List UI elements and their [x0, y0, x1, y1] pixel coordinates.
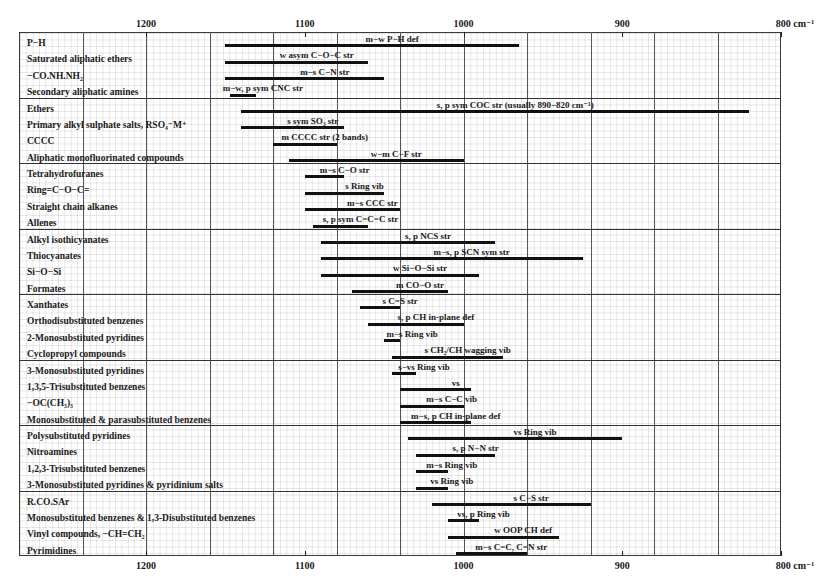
frequency-range-bar — [400, 421, 471, 424]
frequency-range-bar — [456, 552, 527, 555]
assignment-label: w Si−O−Si str — [393, 263, 447, 273]
assignment-label: vs Ring vib — [514, 427, 557, 437]
frequency-range-bar — [321, 241, 496, 244]
assignment-label: s sym SO₃ str — [287, 116, 338, 126]
assignment-label: m CO−O str — [396, 280, 444, 290]
compound-label: Tetrahydrofuranes — [27, 169, 104, 180]
group-separator — [19, 491, 781, 492]
assignment-label: m−s Ring vib — [386, 329, 437, 339]
compound-label: 1,3,5-Trisubstituted benzenes — [27, 382, 145, 393]
axis-tick-top — [464, 32, 465, 37]
compound-label: Vinyl compounds, −CH=CH₂ — [27, 529, 145, 540]
axis-tick-bottom — [146, 551, 147, 556]
assignment-label: m−s Ring vib — [426, 460, 477, 470]
assignment-label: s, p CH in-plane def — [397, 312, 474, 322]
assignment-label: vs Ring vib — [430, 476, 473, 486]
compound-label: Si−O−Si — [27, 267, 61, 278]
assignment-label: s CH₂/CH wagging vib — [424, 345, 510, 355]
frequency-range-bar — [305, 208, 400, 211]
axis-label-top: 900 — [615, 18, 630, 29]
compound-label: 2-Monosubstituted pyridines — [27, 333, 144, 344]
compound-label: Aliphatic monofluorinated compounds — [27, 153, 184, 164]
frequency-range-bar — [408, 437, 622, 440]
compound-label: Monosubstituted benzenes & 1,3-Disubstit… — [27, 513, 255, 524]
compound-label: Cyclopropyl compounds — [27, 349, 126, 360]
axis-tick-bottom — [305, 551, 306, 556]
frequency-range-bar — [305, 192, 384, 195]
frequency-range-bar — [416, 470, 448, 473]
assignment-label: w asym C−O−C str — [280, 50, 354, 60]
axis-label-top: 1100 — [295, 18, 314, 29]
compound-label: Saturated aliphatic ethers — [27, 54, 132, 65]
axis-label-bottom: 800 cm⁻¹ — [776, 560, 815, 571]
frequency-range-bar — [448, 536, 559, 539]
frequency-range-bar — [416, 487, 448, 490]
axis-label-top: 800 cm⁻¹ — [776, 18, 815, 29]
assignment-label: vs — [452, 378, 460, 388]
frequency-range-bar — [225, 61, 368, 64]
assignment-label: m−s C−C vib — [426, 394, 477, 404]
axis-label-bottom: 1200 — [136, 560, 156, 571]
axis-label-bottom: 900 — [615, 560, 630, 571]
frequency-range-bar — [400, 388, 471, 391]
compound-label: Straight chain alkanes — [27, 202, 118, 213]
assignment-label: s C=S str — [383, 296, 418, 306]
axis-tick-top — [781, 32, 782, 37]
compound-label: Thiocyanates — [27, 251, 81, 262]
frequency-range-bar — [392, 356, 503, 359]
group-separator — [19, 229, 781, 230]
compound-label: −OC(CH₃)₃ — [27, 398, 73, 409]
assignment-label: s, p N−N str — [452, 443, 498, 453]
frequency-range-bar — [225, 77, 384, 80]
compound-label: Xanthates — [27, 300, 68, 311]
assignment-label: m−w, p sym CNC str — [223, 83, 303, 93]
assignment-label: m−s C−N str — [300, 67, 349, 77]
assignment-label: s, p sym C=C=C str — [323, 214, 399, 224]
compound-label: Secondary aliphatic amines — [27, 87, 138, 98]
axis-label-top: 1200 — [136, 18, 156, 29]
assignment-label: m−s CCC str — [347, 198, 398, 208]
assignment-label: s Ring vib — [345, 181, 384, 191]
assignment-label: m−s C−O str — [320, 165, 370, 175]
compound-label: P−H — [27, 38, 46, 49]
axis-tick-top — [146, 32, 147, 37]
compound-label: CCCC — [27, 136, 54, 147]
frequency-range-bar — [305, 175, 345, 178]
frequency-range-bar — [273, 143, 337, 146]
frequency-range-bar — [448, 519, 480, 522]
group-separator — [19, 294, 781, 295]
frequency-range-bar — [416, 454, 495, 457]
assignment-label: w−m C−F str — [371, 149, 422, 159]
assignment-label: m−s C=C, C=N str — [475, 542, 547, 552]
frequency-range-bar — [321, 257, 583, 260]
axis-tick-bottom — [622, 551, 623, 556]
compound-label: 1,2,3-Trisubstituted benzenes — [27, 464, 145, 475]
frequency-range-bar — [313, 225, 369, 228]
frequency-range-bar — [241, 126, 344, 129]
frequency-range-bar — [230, 94, 255, 97]
ir-correlation-chart: 120012001100110010001000900900800 cm⁻¹80… — [0, 0, 825, 585]
compound-label: Allenes — [27, 218, 57, 229]
assignment-label: s, p NCS str — [405, 231, 451, 241]
frequency-range-bar — [360, 306, 400, 309]
assignment-label: m−s, p CH in-plane def — [411, 411, 500, 421]
frequency-range-bar — [241, 110, 749, 113]
assignment-label: m−s, p SCN sym str — [433, 247, 509, 257]
compound-label: Orthodisubstituted benzenes — [27, 316, 143, 327]
compound-label: Monosubstituted & parasubstituted benzen… — [27, 415, 211, 426]
assignment-label: s C−S str — [514, 493, 549, 503]
assignment-label: w OOP CH def — [494, 525, 552, 535]
compound-label: −CO.NH.NH₂ — [27, 71, 83, 82]
compound-label: Ring=C−O−C= — [27, 185, 89, 196]
axis-label-bottom: 1100 — [295, 560, 314, 571]
assignment-label: m CCCC str (2 bands) — [282, 132, 368, 142]
frequency-range-bar — [321, 274, 480, 277]
frequency-range-bar — [432, 503, 591, 506]
frequency-range-bar — [289, 159, 464, 162]
axis-tick-bottom — [781, 551, 782, 556]
frequency-range-bar — [352, 290, 447, 293]
compound-label: 3-Monosubstituted pyridines & pyridinium… — [27, 480, 223, 491]
assignment-label: m−w P−H def — [366, 34, 419, 44]
axis-label-top: 1000 — [454, 18, 474, 29]
compound-label: Pyrimidines — [27, 546, 76, 557]
